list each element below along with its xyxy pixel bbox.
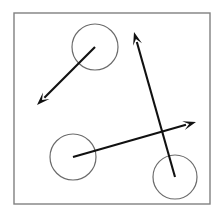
vector-field-diagram: [0, 0, 222, 220]
canvas-background: [0, 0, 222, 220]
diagram-canvas: [0, 0, 222, 220]
